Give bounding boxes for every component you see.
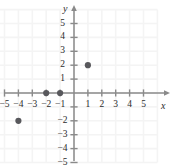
- x-tick-label-5: 5: [130, 100, 158, 110]
- coordinate-plane-canvas: [0, 0, 175, 165]
- axes-group: [4, 5, 170, 161]
- y-tick-label-2: 2: [49, 60, 77, 70]
- x-tick-label--1: −1: [46, 100, 74, 110]
- y-tick-label--2: −2: [49, 116, 77, 126]
- y-tick-label--3: −3: [49, 130, 77, 140]
- y-tick-label--4: −4: [49, 144, 77, 154]
- coordinate-plane-figure: −5−4−3−2−11234554321−2−3−4−5 x y: [0, 0, 175, 165]
- gridlines-group: [0, 10, 157, 163]
- data-point: [85, 62, 91, 68]
- data-point: [57, 90, 63, 96]
- y-tick-label--5: −5: [49, 158, 77, 166]
- y-axis-label: y: [63, 4, 67, 14]
- data-point: [43, 90, 49, 96]
- y-tick-label-4: 4: [49, 32, 77, 42]
- y-tick-label-1: 1: [49, 74, 77, 84]
- data-point: [15, 118, 21, 124]
- x-axis-label: x: [161, 101, 165, 111]
- y-tick-label-5: 5: [49, 19, 77, 29]
- y-tick-label-3: 3: [49, 46, 77, 56]
